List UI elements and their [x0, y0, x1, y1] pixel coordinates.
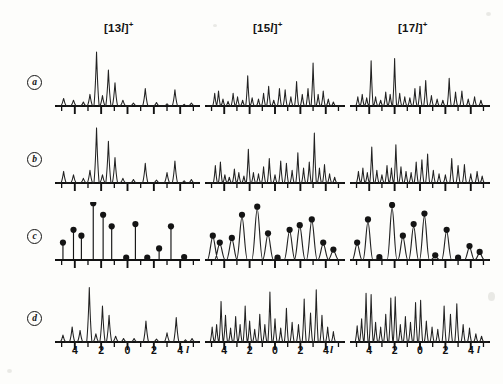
column-header-number: 15	[257, 22, 270, 34]
axis-ticklabels-13l: 42024	[55, 344, 200, 360]
spectrum-trace	[207, 63, 343, 106]
axis-group	[55, 106, 200, 114]
panel-a-17l	[350, 48, 490, 118]
column-header-number: 13	[108, 22, 121, 34]
scan-speck	[7, 369, 12, 373]
axis-tick-label: 2	[151, 344, 157, 356]
spectrum-trace	[352, 58, 488, 106]
axis-tick-label: 0	[272, 344, 278, 356]
column-header-17l: [17l]+	[398, 20, 428, 34]
peak-marker	[123, 255, 129, 261]
axis-variable-17l: l	[477, 343, 480, 355]
row-label-text: c	[32, 232, 36, 242]
spectrum-trace	[207, 209, 343, 260]
axis-variable-15l: l	[330, 343, 333, 355]
peak-marker	[265, 230, 271, 236]
column-header-charge: +	[129, 20, 134, 29]
panel-svg	[55, 48, 200, 118]
row-label-a: a	[27, 75, 42, 90]
peak-marker	[60, 240, 66, 246]
axis-ticklabels-15l: 42024	[205, 344, 345, 360]
peak-marker	[210, 233, 216, 239]
peak-marker	[181, 254, 187, 260]
panel-svg	[350, 125, 490, 195]
axis-tick-label: 4	[72, 344, 78, 356]
row-label-c: c	[27, 229, 42, 244]
axis-group	[350, 260, 490, 268]
spectrum-trace	[57, 128, 198, 183]
peak-marker	[168, 223, 174, 229]
axis-tick-label: 4	[221, 344, 227, 356]
peak-marker	[297, 222, 303, 228]
panel-b-15l	[205, 125, 345, 195]
peak-marker	[70, 227, 76, 233]
axis-tick-label: 2	[247, 344, 253, 356]
panel-c-15l	[205, 202, 345, 272]
peak-marker	[217, 240, 223, 246]
axis-tick-label: 4	[468, 344, 474, 356]
spectrum-trace	[57, 52, 198, 106]
spectrum-trace	[57, 287, 198, 342]
panel-svg	[350, 48, 490, 118]
peak-marker	[229, 235, 235, 241]
panel-svg	[205, 48, 345, 118]
panel-svg	[55, 125, 200, 195]
panel-b-13l	[55, 125, 200, 195]
peak-marker	[90, 202, 96, 206]
axis-tick-label: 2	[98, 344, 104, 356]
spectrum-trace	[352, 145, 488, 183]
column-header-charge: +	[278, 20, 283, 29]
row-label-d: d	[27, 311, 42, 326]
peak-marker	[109, 223, 115, 229]
panel-svg	[55, 202, 200, 272]
axis-variable-13l: l	[186, 343, 189, 355]
peak-marker	[239, 212, 245, 218]
axis-tick-label: 2	[297, 344, 303, 356]
spectra-figure: [13l]+ [15l]+ [17l]+ a b c d 42024 42024…	[0, 0, 503, 384]
peak-marker	[354, 240, 360, 246]
peak-marker	[309, 216, 315, 222]
row-label-text: a	[32, 78, 37, 88]
peak-marker	[320, 240, 326, 246]
row-label-text: b	[32, 155, 37, 165]
axis-tick-label: 0	[417, 344, 423, 356]
peak-marker	[421, 211, 427, 217]
peak-marker	[444, 227, 450, 233]
axis-tick-label: 4	[323, 344, 329, 356]
peak-marker	[274, 255, 280, 261]
panel-c-17l	[350, 202, 490, 272]
axis-group	[55, 260, 200, 268]
panel-a-13l	[55, 48, 200, 118]
axis-group	[55, 183, 200, 191]
panel-a-15l	[205, 48, 345, 118]
scan-speck	[486, 12, 491, 16]
row-label-b: b	[27, 152, 42, 167]
panel-b-17l	[350, 125, 490, 195]
axis-tick-label: 2	[442, 344, 448, 356]
panel-svg	[205, 125, 345, 195]
axis-group	[205, 183, 345, 191]
axis-tick-label: 0	[125, 344, 131, 356]
peak-marker	[466, 243, 472, 249]
peak-marker	[389, 202, 395, 208]
axis-tick-label: 2	[392, 344, 398, 356]
panel-svg	[205, 202, 345, 272]
column-header-charge: +	[423, 20, 428, 29]
axis-group	[350, 183, 490, 191]
spectrum-trace	[352, 208, 488, 260]
peak-marker	[254, 204, 260, 210]
peak-marker	[144, 255, 150, 261]
axis-tick-label: 4	[177, 344, 183, 356]
peak-marker	[477, 249, 483, 255]
peak-marker	[100, 212, 106, 218]
axis-tick-label: 4	[366, 344, 372, 356]
spectrum-trace	[207, 133, 343, 183]
peak-marker	[78, 233, 84, 239]
peak-marker	[376, 254, 382, 260]
spectrum-trace	[352, 293, 488, 342]
axis-ticklabels-17l: 42024	[350, 344, 490, 360]
axis-group	[350, 106, 490, 114]
scan-speck	[213, 24, 217, 27]
peak-marker	[330, 246, 336, 252]
row-label-text: d	[32, 314, 37, 324]
